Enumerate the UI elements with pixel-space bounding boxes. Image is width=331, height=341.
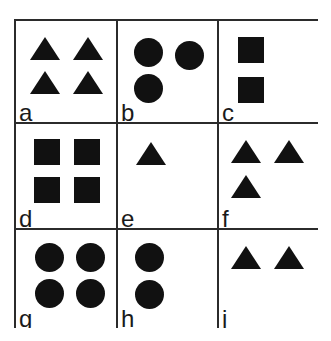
shapes-layer-j <box>219 230 318 328</box>
circle-shape <box>175 41 204 70</box>
matrix-cell-b: b <box>118 21 219 124</box>
square-shape <box>74 177 100 203</box>
shapes-layer-f <box>219 124 318 228</box>
matrix-cell-c: c <box>219 21 318 124</box>
square-shape <box>34 177 60 203</box>
cell-label-e: e <box>121 206 134 230</box>
circle-shape <box>134 38 163 67</box>
cell-label-c: c <box>222 100 234 124</box>
circle-shape <box>76 243 105 272</box>
shape-matrix-grid: abcdefghj <box>14 19 318 328</box>
cell-label-b: b <box>121 100 134 124</box>
circle-shape <box>35 279 64 308</box>
cell-label-g: g <box>19 306 32 328</box>
cell-label-h: h <box>121 306 134 328</box>
square-shape <box>34 139 60 165</box>
square-shape <box>238 37 264 63</box>
matrix-cell-a: a <box>16 21 118 124</box>
circle-shape <box>135 243 164 272</box>
matrix-cell-j: j <box>219 230 318 328</box>
matrix-cell-g: g <box>16 230 118 328</box>
square-shape <box>74 139 100 165</box>
circle-shape <box>135 280 164 309</box>
matrix-cell-d: d <box>16 124 118 230</box>
cell-label-j: j <box>222 306 227 328</box>
matrix-cell-h: h <box>118 230 219 328</box>
matrix-cell-e: e <box>118 124 219 230</box>
cell-label-a: a <box>19 100 32 124</box>
cell-label-f: f <box>222 206 229 230</box>
cell-label-d: d <box>19 206 32 230</box>
figure-root: abcdefghj <box>0 0 331 341</box>
circle-shape <box>35 243 64 272</box>
circle-shape <box>134 74 163 103</box>
circle-shape <box>76 279 105 308</box>
square-shape <box>238 77 264 103</box>
matrix-cell-f: f <box>219 124 318 230</box>
